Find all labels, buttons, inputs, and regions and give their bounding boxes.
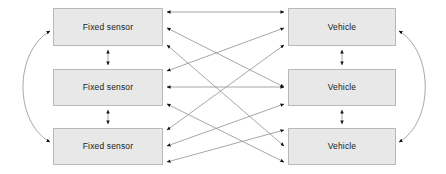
- edge-sensor3-vehicle2: [167, 104, 284, 146]
- node-fixed-sensor-3[interactable]: Fixed sensor: [53, 128, 163, 165]
- node-label: Vehicle: [328, 23, 356, 32]
- diagram-canvas: Fixed sensor Fixed sensor Fixed sensor V…: [0, 0, 446, 174]
- edge-sensor1-sensor3: [23, 31, 50, 142]
- node-label: Fixed sensor: [83, 83, 133, 92]
- edge-sensor3-vehicle3: [167, 130, 284, 162]
- node-fixed-sensor-2[interactable]: Fixed sensor: [53, 69, 163, 106]
- node-label: Vehicle: [328, 83, 356, 92]
- edge-sensor2-vehicle3: [167, 104, 284, 162]
- edge-sensor1-vehicle3: [167, 45, 284, 146]
- node-vehicle-2[interactable]: Vehicle: [288, 69, 396, 106]
- mesh-edge-group: [167, 12, 284, 162]
- edge-vehicle1-vehicle3: [399, 31, 425, 142]
- node-label: Vehicle: [328, 142, 356, 151]
- node-label: Fixed sensor: [83, 23, 133, 32]
- node-label: Fixed sensor: [83, 142, 133, 151]
- node-vehicle-1[interactable]: Vehicle: [288, 8, 396, 46]
- node-vehicle-3[interactable]: Vehicle: [288, 128, 396, 165]
- edge-sensor2-vehicle1: [167, 28, 284, 71]
- node-fixed-sensor-1[interactable]: Fixed sensor: [53, 8, 163, 46]
